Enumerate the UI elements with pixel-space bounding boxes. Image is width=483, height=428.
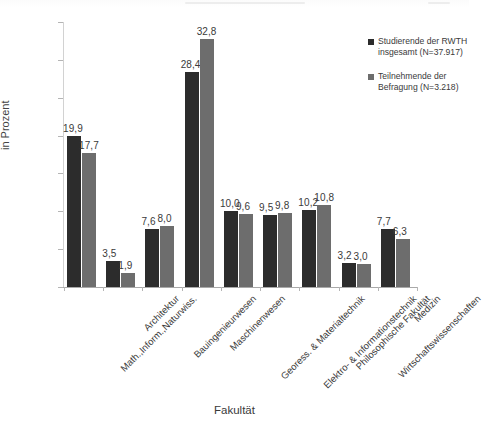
bar-value-label: 7,6: [141, 216, 155, 227]
x-tick-mark: [221, 287, 222, 291]
bar-series-2-6[interactable]: [278, 213, 292, 287]
bar-group: 10,09,6: [221, 22, 260, 287]
x-tick-mark: [260, 287, 261, 291]
bar-value-label: 3,2: [338, 250, 352, 261]
x-axis-line: [63, 287, 418, 288]
y-tick-mark: [58, 22, 63, 23]
bar-series-2-4[interactable]: [200, 39, 214, 287]
legend-swatch-series-1: [368, 39, 374, 45]
bar-value-label: 17,7: [79, 140, 99, 151]
bar-value-label: 10,8: [314, 192, 334, 203]
bar-value-label: 3,0: [354, 251, 368, 262]
y-tick-mark: [58, 60, 63, 61]
x-tick-mark: [103, 287, 104, 291]
x-tick-mark: [182, 287, 183, 291]
bar-series-1-1[interactable]: [67, 136, 81, 287]
bar-group: 7,68,0: [142, 22, 181, 287]
bar-value-label: 6,3: [393, 226, 407, 237]
bar-value-label: 28,4: [181, 59, 201, 70]
x-tick-mark: [64, 287, 65, 291]
bar-group: 28,432,8: [182, 22, 221, 287]
y-tick-mark: [58, 173, 63, 174]
legend-item[interactable]: Studierende der RWTH insgesamt (N=37.917…: [368, 36, 469, 58]
bar-value-label: 9,8: [275, 200, 289, 211]
y-tick-mark: [58, 287, 63, 288]
bar-value-label: 9,6: [236, 201, 250, 212]
legend-label-series-2: Teilnehmende der Befragung (N=3.218): [378, 71, 469, 93]
x-tick-mark: [142, 287, 143, 291]
plot-area: 19,917,73,51,97,68,028,432,810,09,69,59,…: [64, 22, 417, 287]
y-tick-mark: [58, 98, 63, 99]
legend-item[interactable]: Teilnehmende der Befragung (N=3.218): [368, 71, 469, 93]
x-axis-title: Fakultät: [0, 404, 469, 416]
chart-legend: Studierende der RWTH insgesamt (N=37.917…: [368, 36, 469, 106]
bar-group: 9,59,8: [260, 22, 299, 287]
x-tick-mark: [378, 287, 379, 291]
bar-series-2-5[interactable]: [239, 214, 253, 287]
bar-value-label: 32,8: [197, 26, 217, 37]
x-tick-mark: [417, 287, 418, 291]
bar-value-label: 19,9: [63, 123, 83, 134]
bar-series-2-2[interactable]: [121, 273, 135, 287]
bar-series-2-9[interactable]: [396, 239, 410, 287]
category-label-5: Georess. & Materialtechnik: [279, 293, 367, 381]
x-tick-mark: [299, 287, 300, 291]
category-label-1: Math.,Inform.,Naturwiss.: [118, 293, 199, 374]
bar-group: 19,917,7: [64, 22, 103, 287]
bar-group: 3,51,9: [103, 22, 142, 287]
bar-series-2-7[interactable]: [317, 205, 331, 287]
bar-value-label: 8,0: [157, 213, 171, 224]
bar-series-1-7[interactable]: [302, 210, 316, 287]
bar-series-1-9[interactable]: [381, 229, 395, 287]
y-tick-mark: [58, 249, 63, 250]
legend-label-series-1: Studierende der RWTH insgesamt (N=37.917…: [378, 36, 469, 58]
x-tick-mark: [339, 287, 340, 291]
bar-series-2-3[interactable]: [160, 226, 174, 287]
category-label-4: Maschinenwesen: [227, 293, 287, 353]
bar-series-1-6[interactable]: [263, 215, 277, 287]
bar-value-label: 1,9: [118, 260, 132, 271]
legend-swatch-series-2: [368, 74, 374, 80]
y-tick-mark: [58, 136, 63, 137]
y-tick-mark: [58, 211, 63, 212]
bar-value-label: 3,5: [102, 248, 116, 259]
bar-series-1-8[interactable]: [342, 263, 356, 287]
bar-series-1-4[interactable]: [185, 72, 199, 287]
bar-series-2-8[interactable]: [357, 264, 371, 287]
bar-series-2-1[interactable]: [82, 153, 96, 287]
bar-value-label: 9,5: [259, 202, 273, 213]
bar-series-1-5[interactable]: [224, 211, 238, 287]
bar-group: 10,210,8: [299, 22, 338, 287]
y-axis-title: in Prozent: [0, 100, 11, 150]
bar-series-1-3[interactable]: [145, 229, 159, 287]
bar-value-label: 7,7: [377, 216, 391, 227]
